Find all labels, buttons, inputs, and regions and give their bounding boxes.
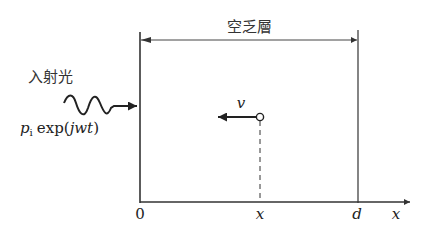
expr-p: p [20, 119, 30, 137]
light-wave-icon [64, 96, 122, 115]
position-label: x [256, 205, 265, 223]
width-label: d [352, 205, 362, 223]
expr-sub: i [30, 127, 33, 138]
velocity-label: v [237, 94, 246, 112]
depletion-arrowhead-left [141, 37, 151, 43]
axis-label: x [392, 205, 401, 223]
origin-label: 0 [135, 205, 145, 223]
depletion-layer-diagram: 空乏層 入射光 piexp(jwt) v 0 x d x [0, 0, 425, 237]
depletion-layer-label: 空乏層 [227, 18, 272, 36]
expr-func: exp [37, 119, 64, 137]
incident-light-label: 入射光 [28, 68, 73, 86]
expr-arg: jwt [67, 119, 94, 137]
incident-expression: piexp(jwt) [20, 119, 99, 138]
expr-close: ) [93, 119, 99, 137]
carrier-marker [256, 113, 263, 120]
